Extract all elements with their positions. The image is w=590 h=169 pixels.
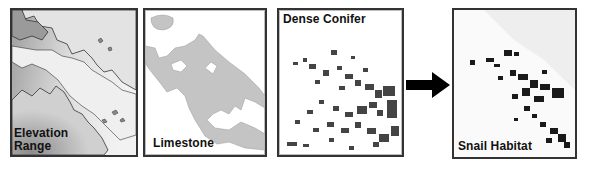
limestone-polygons-map [145, 10, 265, 155]
limestone-map-panel: Limestone [143, 8, 267, 157]
label-line-2: Range [14, 140, 68, 153]
conifer-patches-map [279, 10, 402, 155]
elevation-range-map-panel: Elevation Range [10, 8, 138, 157]
snail-habitat-label: Snail Habitat [458, 140, 532, 153]
elevation-range-label: Elevation Range [14, 127, 68, 153]
snail-habitat-patches-map [454, 10, 575, 157]
right-arrow-icon [406, 72, 450, 98]
dense-conifer-label: Dense Conifer [283, 13, 366, 26]
snail-habitat-map-panel: Snail Habitat [452, 8, 577, 159]
dense-conifer-map-panel: Dense Conifer [277, 8, 404, 157]
limestone-label: Limestone [153, 137, 214, 150]
